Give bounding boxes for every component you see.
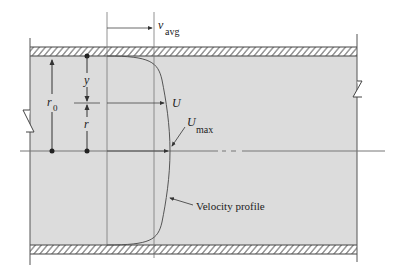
bottom-pipe-wall xyxy=(30,245,357,254)
u-label: U xyxy=(172,96,182,110)
pipe-flow-diagram: v avg r 0 y r U U max Velocity profile xyxy=(0,0,402,276)
vavg-label: v xyxy=(158,18,164,32)
vavg-subscript: avg xyxy=(165,26,179,37)
r0-subscript: 0 xyxy=(53,103,58,113)
r0-label: r xyxy=(47,95,52,109)
top-pipe-wall xyxy=(30,47,357,56)
umax-subscript: max xyxy=(196,124,213,135)
y-label: y xyxy=(83,73,90,87)
center-point-dot xyxy=(85,149,90,154)
r0-origin-dot xyxy=(50,149,55,154)
r-label: r xyxy=(84,117,89,131)
velocity-profile-label: Velocity profile xyxy=(196,200,265,212)
